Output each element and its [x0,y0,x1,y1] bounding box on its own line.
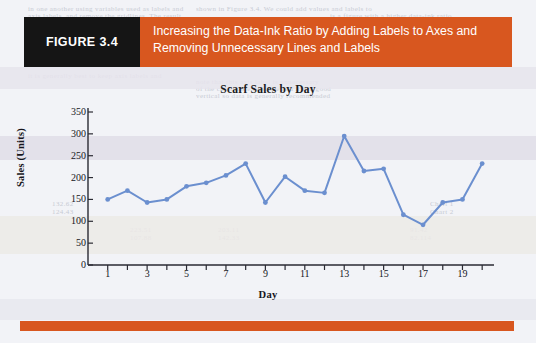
data-point-day-15 [381,166,386,171]
data-point-day-20 [480,161,485,166]
figure-number-tag: FIGURE 3.4 [24,17,140,67]
data-point-day-6 [204,180,209,185]
data-point-day-5 [184,184,189,189]
data-point-day-18 [440,200,445,205]
data-point-day-16 [401,212,406,217]
figure-bottom-rule [20,321,514,331]
data-point-day-12 [322,190,327,195]
data-series-line [108,136,482,225]
data-point-day-8 [243,161,248,166]
data-point-day-7 [224,173,229,178]
line-chart-plot [24,67,512,317]
data-point-day-11 [302,188,307,193]
data-point-day-2 [125,188,130,193]
figure-caption-line-1: Increasing the Data-Ink Ratio by Adding … [153,23,502,40]
data-point-day-19 [460,197,465,202]
data-point-day-1 [105,197,110,202]
figure-page: in one another using variables used as l… [0,0,536,343]
figure-caption-line-2: Removing Unnecessary Lines and Labels [153,40,502,57]
data-point-day-13 [342,134,347,139]
data-point-day-17 [421,222,426,227]
data-point-day-4 [164,197,169,202]
data-point-day-9 [263,200,268,205]
figure-caption: Increasing the Data-Ink Ratio by Adding … [140,17,512,67]
chart-container: Scarf Sales by Day Sales (Units) Day 050… [24,67,512,317]
data-point-day-10 [283,174,288,179]
data-point-day-3 [145,200,150,205]
figure-header: FIGURE 3.4 Increasing the Data-Ink Ratio… [24,17,512,67]
data-point-day-14 [362,169,367,174]
